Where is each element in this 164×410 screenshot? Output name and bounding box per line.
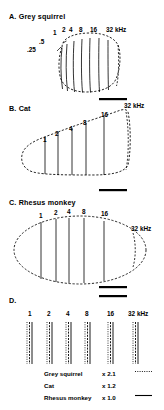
- legend-multiplier-squirrel: x 2.1: [102, 371, 124, 377]
- scale-bar-1: [99, 98, 127, 100]
- panel-c-title: C. Rhesus monkey: [9, 198, 76, 207]
- panel-d-label-2: 2: [47, 311, 51, 317]
- panel-b-label-8: 8: [83, 120, 87, 126]
- legend-multiplier-cat: x 1.2: [102, 383, 124, 389]
- panel-c-label-2: 2: [54, 210, 58, 216]
- panel-a-label-05: .5: [39, 39, 44, 45]
- scale-bar-3: [99, 286, 127, 288]
- scale-bar-4: [99, 295, 127, 297]
- panel-c-label-32khz: 32 kHz: [131, 226, 151, 232]
- panel-b-label-16: 16: [101, 112, 108, 118]
- panel-a-contour-4: [90, 38, 91, 93]
- legend-row-monkey: Rhesus monkey x 1.0: [44, 392, 124, 404]
- legend-label-squirrel: Grey squirrel: [44, 371, 102, 377]
- panel-d-drawing: [27, 322, 138, 364]
- panel-a-label-32khz: 32 kHz: [106, 27, 126, 33]
- panel-a-contour-05: [66, 44, 67, 91]
- legend-label-monkey: Rhesus monkey: [44, 395, 102, 401]
- scale-bar-2: [99, 189, 127, 191]
- panel-b-title: B. Cat: [9, 104, 31, 113]
- panel-a-leader-025: [57, 47, 61, 51]
- panel-a-contour-1: [73, 41, 74, 92]
- panel-b-label-1: 1: [43, 137, 47, 143]
- panel-b-outline: [22, 110, 131, 175]
- panel-a-label-4: 4: [69, 27, 73, 33]
- panel-a-contour-025: [61, 48, 63, 89]
- panel-b-drawing: [22, 110, 131, 175]
- panel-d-label-8: 8: [85, 311, 89, 317]
- panel-c-outline: [14, 216, 146, 284]
- legend-row-cat: Cat x 1.2: [44, 380, 124, 392]
- panel-b-label-2: 2: [55, 131, 59, 137]
- panel-d-label-16: 16: [107, 311, 114, 317]
- panel-a-label-025: .25: [27, 47, 36, 53]
- panel-d-label-1: 1: [28, 311, 32, 317]
- panel-d-label-4: 4: [66, 311, 70, 317]
- legend: Grey squirrel x 2.1 Cat x 1.2 Rhesus mon…: [44, 368, 124, 404]
- panel-a-label-16: 16: [90, 27, 97, 33]
- panel-a-label-2: 2: [62, 27, 66, 33]
- panel-c-label-8: 8: [82, 209, 86, 215]
- panel-a-drawing: [57, 33, 120, 93]
- panel-c-label-16: 16: [101, 211, 108, 217]
- panel-a-label-8: 8: [79, 27, 83, 33]
- panel-b-label-32khz: 32 kHz: [124, 103, 144, 109]
- legend-row-squirrel: Grey squirrel x 2.1: [44, 368, 124, 380]
- panel-a-contour-32: [117, 45, 119, 86]
- panel-a-label-1: 1: [53, 30, 57, 36]
- panel-c-label-1: 1: [39, 213, 43, 219]
- panel-c-label-4: 4: [67, 209, 71, 215]
- panel-d-title: D.: [9, 296, 17, 305]
- legend-multiplier-monkey: x 1.0: [102, 395, 124, 401]
- panel-c-contour-32: [133, 233, 135, 267]
- panel-a-contour-16: [108, 40, 109, 90]
- legend-label-cat: Cat: [44, 383, 102, 389]
- figure-root: A. Grey squirrel: [0, 0, 164, 410]
- panel-b-contour-32: [126, 112, 128, 170]
- panel-d-label-32khz: 32 kHz: [128, 311, 148, 317]
- panel-a-contour-2: [81, 39, 82, 93]
- panel-a-contour-8: [99, 38, 100, 92]
- panel-b-label-4: 4: [69, 126, 73, 132]
- panel-c-drawing: [14, 216, 146, 284]
